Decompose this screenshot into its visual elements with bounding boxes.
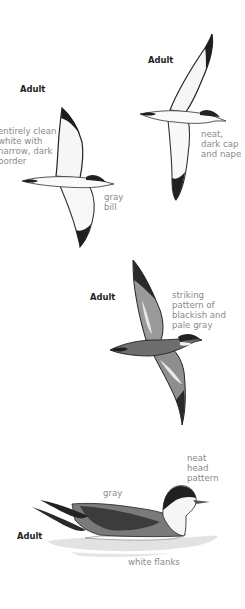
bird-illustration-swimming	[0, 0, 245, 609]
age-label-swimming: Adult	[17, 531, 42, 541]
annotation-white-flanks: white flanks	[128, 557, 180, 567]
annotation-neat-head-pattern: neat head pattern	[187, 453, 219, 483]
annotation-gray-back: gray	[103, 488, 122, 498]
